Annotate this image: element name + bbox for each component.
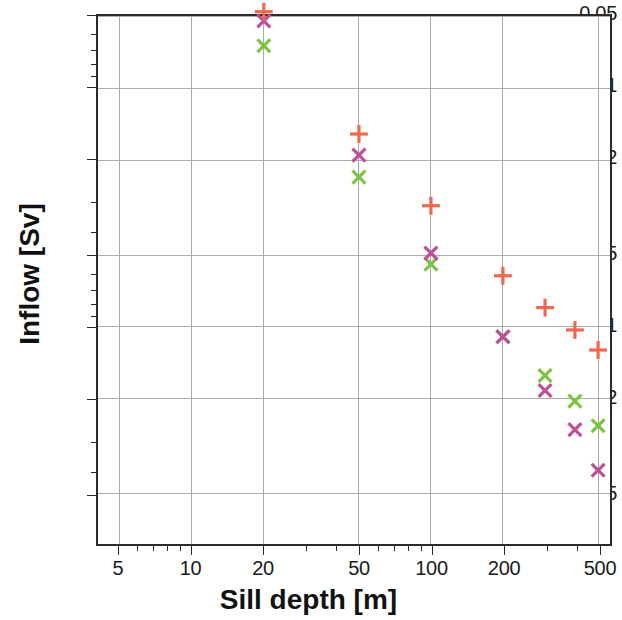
data-points [98,16,610,544]
x-tick-minor [577,546,578,551]
plot-area [96,14,612,546]
x-tick-major [263,546,264,555]
data-point [350,125,368,143]
data-point [353,149,366,162]
data-point [568,423,581,436]
x-tick-minor [421,546,422,551]
data-point [497,330,510,343]
data-point [425,247,438,260]
x-tick-major [504,546,505,555]
data-point [568,395,581,408]
x-tick-minor [408,546,409,551]
data-series-magenta-crosses [257,15,604,477]
x-tick-label: 50 [324,557,394,580]
x-tick-minor [306,546,307,551]
x-tick-major [191,546,192,555]
x-tick-major [432,546,433,555]
data-series-green-crosses [257,39,604,432]
y-tick-major [87,87,96,88]
x-tick-label: 200 [469,557,539,580]
y-tick-major [87,327,96,328]
x-axis-title: Sill depth [m] [0,584,617,616]
y-tick-major [87,255,96,256]
data-point [566,321,584,339]
x-tick-minor [137,546,138,551]
data-series-orange-plus [111,0,607,359]
x-tick-minor [547,546,548,551]
x-tick-label: 500 [565,557,622,580]
x-tick-minor [378,546,379,551]
x-tick-minor [153,546,154,551]
data-point [536,299,554,317]
data-point [592,464,605,477]
x-tick-label: 5 [83,557,153,580]
x-tick-minor [394,546,395,551]
data-point [255,3,273,21]
x-tick-label: 10 [156,557,226,580]
data-point [353,171,366,184]
y-tick-major [87,15,96,16]
data-point [592,419,605,432]
data-point [539,384,552,397]
x-tick-major [118,546,119,555]
y-tick-major [87,399,96,400]
x-tick-minor [180,546,181,551]
y-tick-major [87,159,96,160]
x-tick-minor [167,546,168,551]
y-tick-major [87,495,96,496]
x-tick-minor [336,546,337,551]
y-axis-title: Inflow [Sv] [14,94,46,454]
data-point [257,39,270,52]
x-tick-major [600,546,601,555]
x-tick-label: 20 [228,557,298,580]
x-tick-major [359,546,360,555]
x-tick-label: 100 [397,557,467,580]
data-point [539,369,552,382]
data-point [422,197,440,215]
data-point [494,267,512,285]
data-point [589,341,607,359]
